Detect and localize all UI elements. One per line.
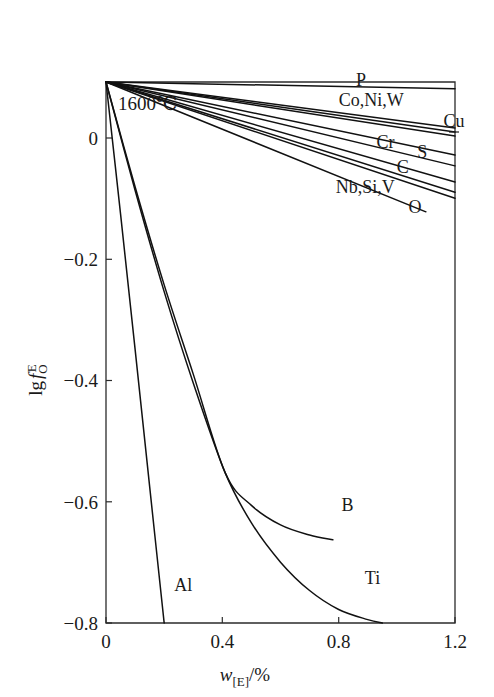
y-tick-label-0: 0 — [89, 128, 99, 149]
x-tick-label-3: 1.2 — [443, 631, 467, 652]
y-axis-ticks — [106, 138, 112, 623]
y-axis-superscript: E — [24, 364, 39, 372]
y-tick-label-4: −0.8 — [64, 613, 98, 634]
series-curve-B — [106, 82, 333, 540]
series-label-Ti: Ti — [365, 568, 380, 588]
temperature-annotation: 1600℃ — [118, 93, 177, 114]
series-label-S: S — [417, 142, 427, 162]
series-line-P — [106, 82, 455, 89]
y-tick-labels: 0 −0.2 −0.4 −0.6 −0.8 — [64, 128, 99, 634]
series-label-O: O — [409, 197, 422, 217]
series-curve-Al — [106, 82, 164, 623]
y-tick-label-2: −0.4 — [64, 370, 99, 391]
x-tick-labels: 0 0.4 0.8 1.2 — [101, 631, 467, 652]
series-label-Al: Al — [174, 575, 192, 595]
x-tick-label-2: 0.8 — [327, 631, 351, 652]
y-axis-title: lgfOE — [24, 364, 50, 395]
x-tick-label-1: 0.4 — [210, 631, 234, 652]
series-label-Cu: Cu — [443, 111, 464, 131]
x-axis-unit: /% — [249, 664, 270, 685]
x-axis-title: w[E]/% — [220, 664, 271, 689]
series-label-P: P — [356, 70, 366, 90]
svg-text:w[E]/%: w[E]/% — [220, 664, 271, 689]
x-axis-symbol: w — [220, 664, 233, 685]
y-tick-label-1: −0.2 — [64, 249, 98, 270]
x-tick-label-0: 0 — [101, 631, 111, 652]
svg-text:lgfOE: lgfOE — [24, 364, 50, 395]
series-label-Cr: Cr — [377, 132, 395, 152]
x-axis-subscript: [E] — [232, 674, 249, 689]
y-tick-label-3: −0.6 — [64, 492, 98, 513]
chart-figure: 1600℃ 0 −0.2 −0.4 −0.6 −0.8 0 0.4 0.8 1.… — [0, 0, 494, 697]
series-label-NbSiV: Nb,Si,V — [336, 177, 395, 197]
series-label-B: B — [342, 495, 354, 515]
series-curve-Ti — [106, 82, 382, 623]
deoxidation-activity-coefficient-chart: 1600℃ 0 −0.2 −0.4 −0.6 −0.8 0 0.4 0.8 1.… — [0, 0, 494, 697]
series-label-CoNiW: Co,Ni,W — [339, 90, 404, 110]
y-axis-prefix: lg — [25, 380, 46, 395]
series-label-C: C — [397, 157, 409, 177]
x-axis-ticks — [106, 617, 455, 623]
